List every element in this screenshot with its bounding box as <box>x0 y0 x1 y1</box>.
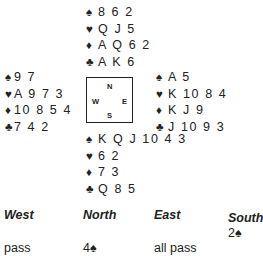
bid-north-round2: 4♠ <box>83 241 97 255</box>
west-hearts: ♥A 9 7 3 <box>5 86 72 103</box>
east-spades: ♠A 5 <box>156 69 227 86</box>
south-diamonds: ♦7 3 <box>86 164 187 181</box>
diamond-icon: ♦ <box>86 37 98 54</box>
east-diamonds: ♦K J 9 <box>156 102 227 119</box>
south-hearts: ♥6 2 <box>86 148 187 165</box>
club-icon: ♣ <box>86 181 98 198</box>
bid-south-round1: 2♠ <box>228 226 242 240</box>
compass-south-label: S <box>107 111 112 120</box>
compass-west-label: W <box>92 97 99 106</box>
spade-icon: ♠ <box>86 4 98 21</box>
heart-icon: ♥ <box>86 148 98 165</box>
compass-box: N W E S <box>86 77 133 123</box>
south-hand: ♠K Q J 10 4 3 ♥6 2 ♦7 3 ♣Q 8 5 <box>86 131 187 197</box>
west-diamonds: ♦10 8 5 4 <box>5 102 72 119</box>
west-clubs: ♣7 4 2 <box>5 119 72 136</box>
bidding-header-south: South <box>228 211 263 225</box>
north-hand: ♠8 6 2 ♥Q J 5 ♦A Q 6 2 ♣A K 6 <box>86 4 151 70</box>
bid-east-round2: all pass <box>154 241 196 255</box>
diamond-icon: ♦ <box>86 164 98 181</box>
heart-icon: ♥ <box>5 86 14 103</box>
north-clubs: ♣A K 6 <box>86 54 151 71</box>
bidding-header-north: North <box>83 208 116 222</box>
north-spades: ♠8 6 2 <box>86 4 151 21</box>
spade-icon: ♠ <box>86 131 98 148</box>
west-spades: ♠9 7 <box>5 69 72 86</box>
north-diamonds: ♦A Q 6 2 <box>86 37 151 54</box>
compass-east-label: E <box>122 97 127 106</box>
compass-north-label: N <box>107 82 112 91</box>
east-hand: ♠A 5 ♥K 10 8 4 ♦K J 9 ♣J 10 9 3 <box>156 69 227 135</box>
club-icon: ♣ <box>86 54 98 71</box>
heart-icon: ♥ <box>86 21 98 38</box>
south-spades: ♠K Q J 10 4 3 <box>86 131 187 148</box>
east-hearts: ♥K 10 8 4 <box>156 86 227 103</box>
south-clubs: ♣Q 8 5 <box>86 181 187 198</box>
west-hand: ♠9 7 ♥A 9 7 3 ♦10 8 5 4 ♣7 4 2 <box>5 69 72 135</box>
bidding-header-east: East <box>154 208 180 222</box>
bid-west-round2: pass <box>4 241 30 255</box>
diamond-icon: ♦ <box>5 102 14 119</box>
club-icon: ♣ <box>5 119 14 136</box>
spade-icon: ♠ <box>5 69 14 86</box>
north-hearts: ♥Q J 5 <box>86 21 151 38</box>
heart-icon: ♥ <box>156 86 168 103</box>
spade-icon: ♠ <box>156 69 168 86</box>
diamond-icon: ♦ <box>156 102 168 119</box>
bidding-header-west: West <box>4 208 34 222</box>
